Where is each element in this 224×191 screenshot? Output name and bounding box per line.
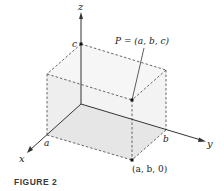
coordinate-box-diagram: z y x c a b P = (a, b, c) (a, b, 0) FIGU… <box>0 0 224 191</box>
tick-label-c: c <box>72 39 77 49</box>
x-axis-label: x <box>19 153 25 164</box>
point-ab0-marker <box>131 159 134 162</box>
x-axis-arrowhead <box>27 146 33 153</box>
point-ab0-label: (a, b, 0) <box>132 164 167 174</box>
z-axis-arrowhead <box>79 12 83 19</box>
y-axis-arrowhead <box>198 138 206 143</box>
point-c-marker <box>80 43 83 46</box>
y-axis-label: y <box>206 138 213 149</box>
tick-label-b: b <box>163 134 169 144</box>
point-p-label: P = (a, b, c) <box>114 36 169 46</box>
figure-caption: FIGURE 2 <box>14 177 57 187</box>
point-p-marker <box>131 99 134 102</box>
tick-label-a: a <box>44 138 49 148</box>
z-axis-label: z <box>77 1 84 12</box>
